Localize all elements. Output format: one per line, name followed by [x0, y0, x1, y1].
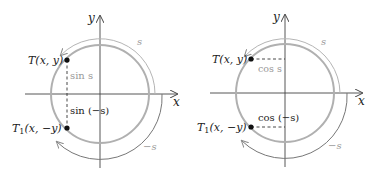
sin-s-label: sin s	[70, 70, 93, 81]
sin-minus-s-label: sin (−s)	[70, 105, 109, 116]
point-T1	[248, 124, 253, 129]
cos-s-label: cos s	[258, 63, 282, 74]
point-T-label: T(x, y)	[28, 54, 63, 67]
x-axis-label: x	[173, 95, 180, 109]
cos-minus-s-label: cos (−s)	[258, 112, 299, 123]
point-T1-label: T1(x, −y)	[12, 122, 62, 136]
x-axis-label: x	[358, 94, 365, 108]
point-T-label: T(x, y)	[212, 53, 247, 66]
point-T	[64, 57, 69, 62]
right-panel: y x T(x, y) T1(x, −y) cos s cos (−s) s −…	[197, 10, 365, 167]
arc-s-label: s	[137, 36, 142, 47]
y-axis-label: y	[272, 10, 280, 24]
point-T1	[64, 125, 69, 130]
arc-minus-s-label: −s	[143, 141, 157, 152]
arc-minus-s-label: −s	[328, 140, 342, 151]
arc-s-label: s	[321, 36, 326, 47]
left-panel: y x T(x, y) T1(x, −y) sin s sin (−s) s −…	[12, 11, 180, 168]
diagram-canvas: y x T(x, y) T1(x, −y) sin s sin (−s) s −…	[0, 0, 376, 174]
y-axis-label: y	[87, 11, 95, 25]
point-T	[248, 56, 253, 61]
point-T1-label: T1(x, −y)	[197, 121, 247, 135]
